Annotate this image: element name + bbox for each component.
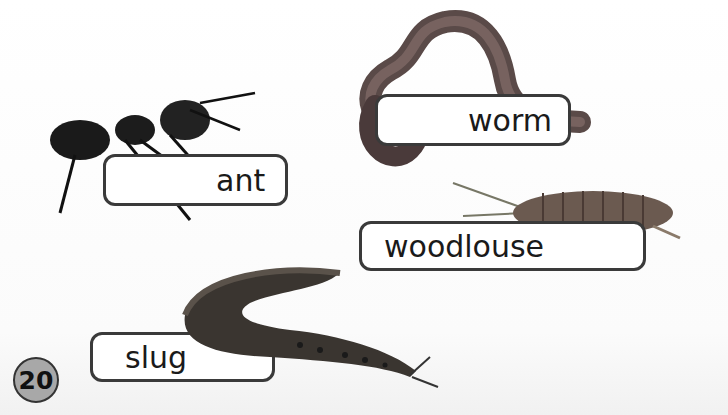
woodlouse-label: woodlouse [359,221,646,271]
worm-text: worm [468,103,552,138]
slug-image [180,265,445,395]
worm-label: worm [375,94,571,146]
slug-text: slug [125,340,187,375]
worm-image [350,10,610,170]
page-number-badge: 20 [13,357,59,403]
book-page: worm ant woodlouse slug [0,0,728,415]
ant-text: ant [216,163,265,198]
woodlouse-text: woodlouse [384,229,544,264]
ant-label: ant [103,154,288,206]
page-number: 20 [19,366,54,395]
